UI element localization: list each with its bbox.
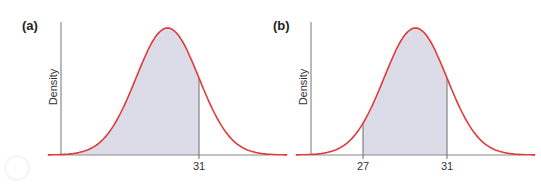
charts-canvas: [0, 0, 541, 189]
panel-b-plot: [296, 22, 535, 159]
panel-a-shaded-area: [48, 28, 199, 155]
panel-a-plot: [48, 22, 287, 159]
